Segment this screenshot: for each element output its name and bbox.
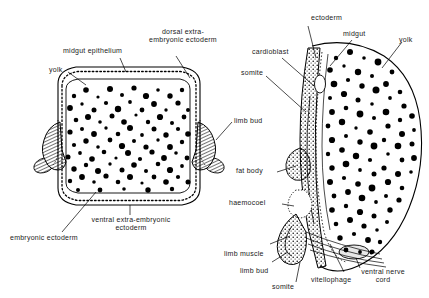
- label-somite-upper: somite: [241, 69, 263, 77]
- fat-body-mass: [286, 148, 310, 180]
- label-midgut: midgut: [343, 30, 366, 38]
- label-dorsal-ectoderm-line2: embryonic ectoderm: [149, 36, 217, 43]
- label-dorsal-extra-embryonic-ectoderm: dorsal extra- embryonic ectoderm: [140, 28, 226, 45]
- label-ventral-ectoderm-line2: ectoderm: [115, 224, 146, 231]
- label-limb-muscle: limb muscle: [224, 250, 264, 258]
- body-wall-outline: [312, 43, 422, 271]
- label-ventral-ectoderm-line1: ventral extra-embryonic: [92, 216, 171, 223]
- cardioblast-lumen: [315, 75, 326, 93]
- label-ectoderm: ectoderm: [311, 14, 342, 22]
- label-embryonic-ectoderm: embryonic ectoderm: [10, 234, 78, 242]
- leader-somite-lower: [296, 262, 300, 282]
- right-section-drawing: [266, 26, 422, 282]
- label-ventral-extra-embryonic-ectoderm: ventral extra-embryonic ectoderm: [76, 216, 186, 233]
- left-section-drawing: [34, 56, 232, 232]
- label-haemocoel: haemocoel: [229, 199, 266, 207]
- embryo-section-figure: midgut epithelium dorsal extra- embryoni…: [0, 0, 429, 298]
- label-cardioblast: cardioblast: [252, 48, 289, 56]
- label-fat-body: fat body: [236, 167, 263, 175]
- label-ventral-nerve-cord: ventral nerve cord: [352, 268, 414, 285]
- label-ventral-nerve-cord-line1: ventral nerve: [361, 268, 405, 275]
- label-midgut-epithelium: midgut epithelium: [63, 47, 122, 55]
- haemocoel-cavity: [288, 190, 312, 218]
- ventral-nerve-cord-body: [339, 245, 369, 259]
- label-ventral-nerve-cord-line2: cord: [376, 276, 391, 283]
- label-dorsal-ectoderm-line1: dorsal extra-: [162, 28, 204, 35]
- label-somite-lower: somite: [272, 283, 294, 291]
- label-limb-bud-lower: limb bud: [240, 267, 268, 275]
- label-vitellophage: vitellophage: [311, 276, 351, 284]
- label-yolk-right: yolk: [399, 36, 412, 44]
- leader-limb-bud-left-panel: [216, 122, 232, 140]
- label-limb-bud-left-panel: limb bud: [234, 117, 262, 125]
- leader-somite-upper: [266, 76, 306, 112]
- label-yolk-left: yolk: [49, 66, 62, 74]
